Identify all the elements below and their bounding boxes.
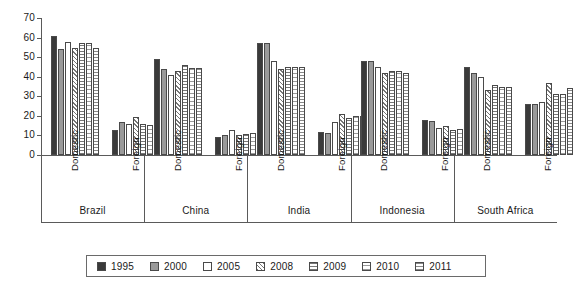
bar <box>471 73 477 155</box>
legend-label: 2009 <box>323 261 346 272</box>
subgroup-label-domestic: Domestic <box>172 130 183 171</box>
group-separator <box>41 156 42 222</box>
subgroup-label-foreign: Foreign <box>233 137 244 171</box>
bar <box>112 130 118 155</box>
legend-swatch-2009 <box>309 262 318 271</box>
bar <box>396 71 402 155</box>
bar <box>292 67 298 155</box>
bar <box>560 94 566 155</box>
legend-item-2000: 2000 <box>150 261 187 272</box>
group-label-brazil: Brazil <box>41 205 144 216</box>
bar <box>532 104 538 155</box>
bar <box>525 104 531 155</box>
legend-swatch-2008 <box>256 262 265 271</box>
subgroup-label-foreign: Foreign <box>336 137 347 171</box>
group-label-indonesia: Indonesia <box>351 205 454 216</box>
legend-swatch-1995 <box>97 262 106 271</box>
chart-legend: 1995200020052008200920102011 <box>86 255 486 277</box>
bar <box>154 59 160 155</box>
bar <box>499 87 505 156</box>
bar <box>222 135 228 155</box>
legend-label: 2011 <box>429 261 451 272</box>
legend-label: 1995 <box>111 261 134 272</box>
bar <box>492 85 498 155</box>
subgroup-label-foreign: Foreign <box>542 137 553 171</box>
bar <box>189 68 195 155</box>
legend-item-2009: 2009 <box>309 261 346 272</box>
bar <box>161 69 167 155</box>
bar <box>567 88 573 155</box>
bar <box>506 87 512 156</box>
subgroup-label-foreign: Foreign <box>130 137 141 171</box>
bar <box>464 67 470 155</box>
bar <box>93 48 99 155</box>
y-tick-label: 30 <box>0 90 41 102</box>
bar <box>264 43 270 155</box>
legend-item-1995: 1995 <box>97 261 134 272</box>
legend-label: 2010 <box>376 261 399 272</box>
subgroup-label-domestic: Domestic <box>69 130 80 171</box>
y-tick-label: 40 <box>0 71 41 83</box>
legend-item-2010: 2010 <box>362 261 399 272</box>
legend-item-2005: 2005 <box>203 261 240 272</box>
group-label-india: India <box>247 205 350 216</box>
y-tick-label: 10 <box>0 129 41 141</box>
legend-label: 2005 <box>217 261 240 272</box>
legend-label: 2008 <box>270 261 293 272</box>
bar <box>86 43 92 155</box>
legend-swatch-2011 <box>415 262 424 271</box>
bar-group <box>144 18 247 155</box>
bar <box>196 68 202 155</box>
bar <box>422 120 428 155</box>
bar <box>182 65 188 155</box>
plot-area <box>41 18 557 155</box>
bar <box>51 36 57 155</box>
bar <box>553 94 559 155</box>
bar-group <box>351 18 454 155</box>
group-label-china: China <box>144 205 247 216</box>
legend-label: 2000 <box>164 261 187 272</box>
bar <box>361 61 367 155</box>
legend-item-2008: 2008 <box>256 261 293 272</box>
y-tick-label: 70 <box>0 12 41 24</box>
bar <box>299 67 305 155</box>
y-tick-label: 50 <box>0 51 41 63</box>
bar <box>318 132 324 155</box>
bar <box>285 67 291 155</box>
subgroup-label-domestic: Domestic <box>275 130 286 171</box>
bar-group <box>247 18 350 155</box>
bar-subgroup <box>525 18 574 155</box>
legend-swatch-2005 <box>203 262 212 271</box>
group-label-south-africa: South Africa <box>454 205 557 216</box>
y-tick-label: 20 <box>0 110 41 122</box>
bar <box>325 133 331 155</box>
bar <box>257 43 263 155</box>
category-band-baseline <box>41 222 557 223</box>
x-axis-line <box>41 155 557 156</box>
subgroup-label-foreign: Foreign <box>439 137 450 171</box>
y-tick-label: 0 <box>0 149 41 161</box>
bar-group <box>41 18 144 155</box>
bar-group <box>454 18 557 155</box>
bar <box>215 137 221 155</box>
legend-item-2011: 2011 <box>415 261 451 272</box>
y-tick-label: 60 <box>0 32 41 44</box>
bar <box>368 61 374 155</box>
bar <box>403 73 409 155</box>
legend-swatch-2000 <box>150 262 159 271</box>
subgroup-label-domestic: Domestic <box>481 130 492 171</box>
bar <box>429 121 435 155</box>
subgroup-label-domestic: Domestic <box>378 130 389 171</box>
bar <box>58 49 64 155</box>
legend-swatch-2010 <box>362 262 371 271</box>
bar <box>389 71 395 155</box>
bar <box>119 122 125 155</box>
